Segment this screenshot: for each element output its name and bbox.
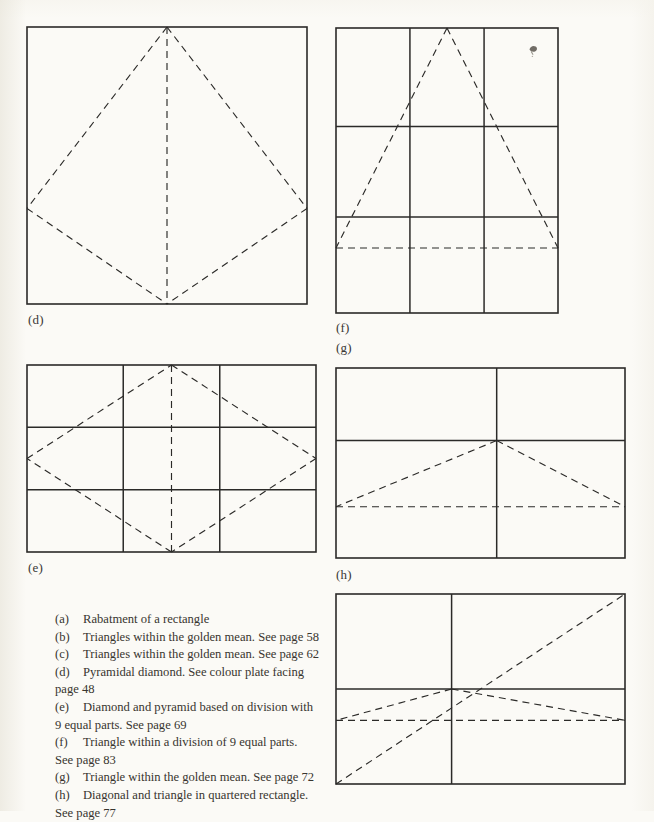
left-to-top bbox=[27, 365, 172, 459]
caption-entry-continuation: See page 77 bbox=[55, 805, 385, 822]
figure-f-triangle-nine-parts bbox=[333, 25, 561, 316]
caption-entry-key: (d) bbox=[55, 664, 83, 682]
caption-entry-text: Triangle within the golden mean. See pag… bbox=[83, 770, 314, 784]
figure-outer-frame bbox=[336, 368, 625, 558]
apex-to-right-base bbox=[452, 689, 625, 720]
bottom-to-left bbox=[27, 459, 172, 553]
caption-entry: (h)Diagonal and triangle in quartered re… bbox=[55, 787, 385, 805]
caption-entry-continuation: 9 equal parts. See page 69 bbox=[55, 717, 385, 735]
figure-caption-list: (a)Rabatment of a rectangle(b)Triangles … bbox=[55, 611, 385, 822]
figure-g-triangle-golden-mean bbox=[333, 365, 628, 561]
caption-entry: (f)Triangle within a division of 9 equal… bbox=[55, 734, 385, 752]
top-to-right bbox=[172, 365, 317, 459]
caption-entry-text: Diamond and pyramid based on division wi… bbox=[83, 700, 313, 714]
apex-to-bottom-left bbox=[336, 28, 447, 248]
caption-entry-key: (h) bbox=[55, 787, 83, 805]
caption-entry-key: (c) bbox=[55, 646, 83, 664]
caption-entry-text: Pyramidal diamond. See colour plate faci… bbox=[83, 665, 304, 679]
figure-d-pyramidal-diamond bbox=[24, 24, 310, 307]
caption-entry-key: (a) bbox=[55, 611, 83, 629]
left-to-base bbox=[27, 208, 167, 304]
apex-to-left bbox=[27, 27, 167, 208]
caption-entry-key: (b) bbox=[55, 629, 83, 647]
apex-to-bottom-right bbox=[447, 28, 558, 248]
caption-entry-key: (e) bbox=[55, 699, 83, 717]
figure-outer-frame bbox=[336, 28, 558, 313]
figure-label-f: (f) bbox=[336, 320, 350, 336]
caption-entry-text: Triangle within a division of 9 equal pa… bbox=[83, 735, 297, 749]
caption-entry: (b)Triangles within the golden mean. See… bbox=[55, 629, 385, 647]
caption-entry-continuation: See page 83 bbox=[55, 752, 385, 770]
caption-entry: (g)Triangle within the golden mean. See … bbox=[55, 769, 385, 787]
caption-entry-text: Rabatment of a rectangle bbox=[83, 612, 209, 626]
caption-entry: (a)Rabatment of a rectangle bbox=[55, 611, 385, 629]
figure-label-h: (h) bbox=[336, 567, 352, 583]
caption-entry: (c)Triangles within the golden mean. See… bbox=[55, 646, 385, 664]
apex-to-left-base bbox=[336, 441, 497, 507]
caption-entry: (e)Diamond and pyramid based on division… bbox=[55, 699, 385, 717]
caption-entry-continuation: page 48 bbox=[55, 681, 385, 699]
caption-entry-key: (g) bbox=[55, 769, 83, 787]
caption-entry-text: Triangles within the golden mean. See pa… bbox=[83, 647, 319, 661]
figure-label-g-upper: (g) bbox=[336, 340, 352, 356]
apex-to-right bbox=[167, 27, 307, 208]
apex-to-right-base bbox=[497, 441, 625, 507]
right-to-base bbox=[167, 208, 307, 304]
caption-entry-key: (f) bbox=[55, 734, 83, 752]
caption-entry: (d)Pyramidal diamond. See colour plate f… bbox=[55, 664, 385, 682]
caption-entry-text: Triangles within the golden mean. See pa… bbox=[83, 630, 319, 644]
caption-entry-text: Diagonal and triangle in quartered recta… bbox=[83, 788, 308, 802]
figure-e-diamond-pyramid bbox=[24, 362, 319, 555]
right-to-bottom bbox=[172, 459, 317, 553]
figure-label-e: (e) bbox=[28, 560, 43, 576]
figure-label-d: (d) bbox=[28, 312, 44, 328]
